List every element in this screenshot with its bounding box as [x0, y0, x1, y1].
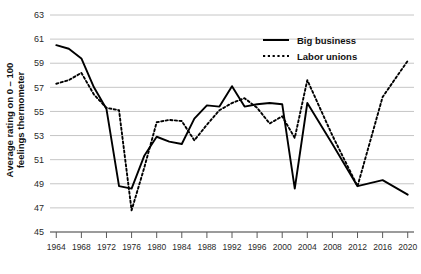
x-tick-label: 1988: [197, 242, 216, 252]
x-tick-label: 1976: [122, 242, 141, 252]
x-tick-label: 1980: [147, 242, 166, 252]
legend-label-big-business: Big business: [297, 35, 356, 46]
x-tick-label: 1964: [47, 242, 66, 252]
y-tick-label: 51: [34, 155, 44, 165]
chart-container: Average rating on 0 – 100 feelings therm…: [0, 0, 421, 274]
x-tick-label: 2012: [348, 242, 367, 252]
x-tick-label: 1996: [248, 242, 267, 252]
x-axis-ticks: [56, 232, 407, 238]
y-tick-label: 61: [34, 34, 44, 44]
y-tick-label: 45: [34, 227, 44, 237]
y-tick-label: 47: [34, 203, 44, 213]
x-tick-label: 2016: [373, 242, 392, 252]
y-axis-tick-labels: 45474951535557596163: [34, 10, 44, 237]
x-tick-label: 2020: [398, 242, 417, 252]
x-tick-label: 1972: [97, 242, 116, 252]
y-tick-label: 49: [34, 179, 44, 189]
y-tick-label: 53: [34, 131, 44, 141]
x-tick-label: 2004: [298, 242, 317, 252]
legend-label-labor-unions: Labor unions: [297, 51, 357, 62]
y-tick-label: 57: [34, 83, 44, 93]
x-tick-label: 2000: [273, 242, 292, 252]
y-tick-label: 59: [34, 58, 44, 68]
data-series-group: [56, 45, 407, 210]
x-tick-label: 1984: [172, 242, 191, 252]
x-tick-label: 1968: [72, 242, 91, 252]
series-line-big-business: [56, 45, 407, 194]
chart-legend: Big businessLabor unions: [263, 35, 357, 62]
y-tick-label: 63: [34, 10, 44, 20]
x-tick-label: 1992: [223, 242, 242, 252]
y-tick-label: 55: [34, 107, 44, 117]
x-tick-label: 2008: [323, 242, 342, 252]
x-axis-tick-labels: 1964196819721976198019841988199219962000…: [47, 242, 418, 252]
line-chart-plot: 45474951535557596163 1964196819721976198…: [0, 0, 421, 274]
